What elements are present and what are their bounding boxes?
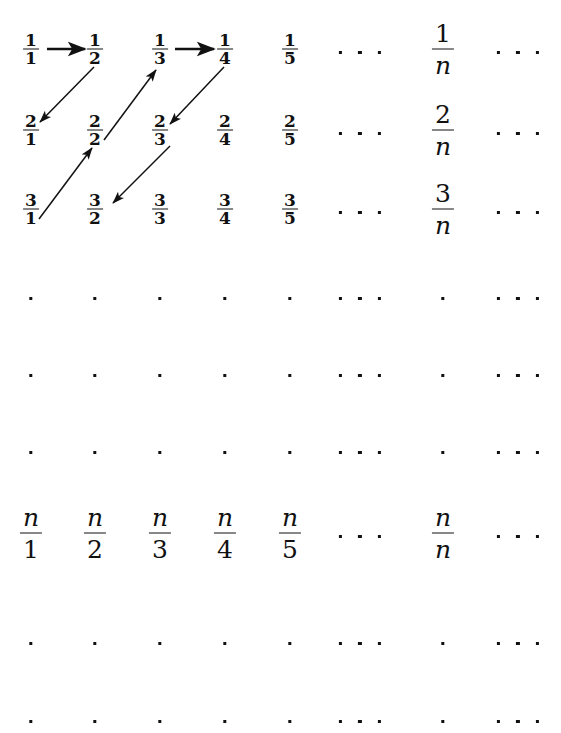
fraction-3-over-1-denominator: 1 xyxy=(23,210,39,227)
dot-glyph xyxy=(223,297,226,300)
fraction-n-over-3-numerator: n xyxy=(149,505,171,534)
dot-glyph xyxy=(536,51,539,54)
vertical-dot xyxy=(158,364,161,380)
dot-glyph xyxy=(536,720,539,723)
dot-glyph xyxy=(378,132,381,135)
dot-glyph xyxy=(223,720,226,723)
grid-cell-row-dots-3-col4 xyxy=(223,441,226,457)
grid-cell-row-2-col8 xyxy=(497,122,539,138)
dot-glyph xyxy=(441,374,444,377)
dot-glyph xyxy=(441,297,444,300)
fraction-2-over-2: 22 xyxy=(87,113,103,148)
fraction-1-over-1-denominator: 1 xyxy=(23,50,39,67)
fraction-3-over-4-denominator: 4 xyxy=(217,210,233,227)
grid-cell-row-dots-5-col8 xyxy=(497,710,539,726)
cantor-enumeration-figure: 11121314151n21222324252n31323334353nn1n2… xyxy=(0,0,561,733)
grid-cell-row-1-col1: 11 xyxy=(23,32,39,67)
grid-cell-row-dots-3-col2 xyxy=(93,441,96,457)
fraction-n-over-2: n2 xyxy=(84,505,106,562)
fraction-2-over-3: 23 xyxy=(152,113,168,148)
diagonal-dots xyxy=(339,287,381,303)
dot-glyph xyxy=(223,451,226,454)
grid-cell-row-dots-4-col8 xyxy=(497,632,539,648)
grid-cell-row-n-col8 xyxy=(497,525,539,541)
grid-cell-row-dots-5-col2 xyxy=(93,710,96,726)
diagonal-dots xyxy=(339,710,381,726)
arrow-group xyxy=(39,49,224,219)
grid-cell-row-1-col6 xyxy=(339,41,381,57)
grid-cell-row-dots-2-col1 xyxy=(29,364,32,380)
grid-cell-row-dots-3-col1 xyxy=(29,441,32,457)
dot-glyph xyxy=(516,211,519,214)
vertical-dot xyxy=(158,287,161,303)
grid-cell-row-dots-2-col8 xyxy=(497,364,539,380)
vertical-dot xyxy=(288,441,291,457)
dot-glyph xyxy=(516,451,519,454)
dot-glyph xyxy=(378,51,381,54)
grid-cell-row-3-col3: 33 xyxy=(152,192,168,227)
fraction-n-over-n: nn xyxy=(432,505,454,562)
vertical-dot xyxy=(223,364,226,380)
dot-glyph xyxy=(358,132,361,135)
dot-glyph xyxy=(378,642,381,645)
vertical-dot xyxy=(93,364,96,380)
grid-cell-row-dots-4-col4 xyxy=(223,632,226,648)
dot-glyph xyxy=(497,642,500,645)
fraction-2-over-2-denominator: 2 xyxy=(87,131,103,148)
grid-cell-row-dots-4-col6 xyxy=(339,632,381,648)
fraction-n-over-4-numerator: n xyxy=(214,505,236,534)
dot-glyph xyxy=(441,642,444,645)
fraction-n-over-1: n1 xyxy=(20,505,42,562)
dot-glyph xyxy=(339,451,342,454)
dot-glyph xyxy=(339,374,342,377)
dot-glyph xyxy=(358,297,361,300)
fraction-2-over-4-denominator: 4 xyxy=(217,131,233,148)
dot-glyph xyxy=(378,297,381,300)
dot-glyph xyxy=(93,720,96,723)
dot-glyph xyxy=(93,451,96,454)
dot-glyph xyxy=(339,642,342,645)
fraction-1-over-3-denominator: 3 xyxy=(152,50,168,67)
grid-cell-row-2-col5: 25 xyxy=(282,113,298,148)
grid-cell-row-dots-2-col6 xyxy=(339,364,381,380)
grid-cell-row-3-col1: 31 xyxy=(23,192,39,227)
dot-glyph xyxy=(536,642,539,645)
grid-cell-row-3-col5: 35 xyxy=(282,192,298,227)
fraction-1-over-4: 14 xyxy=(217,32,233,67)
grid-cell-row-2-col7: 2n xyxy=(432,102,454,159)
grid-cell-row-dots-1-col8 xyxy=(497,287,539,303)
grid-cell-row-n-col3: n3 xyxy=(149,505,171,562)
dot-glyph xyxy=(288,297,291,300)
dot-glyph xyxy=(378,211,381,214)
dot-glyph xyxy=(497,374,500,377)
dot-glyph xyxy=(536,297,539,300)
dot-glyph xyxy=(358,451,361,454)
row-3-ellipsis xyxy=(339,201,381,217)
dot-glyph xyxy=(29,297,32,300)
vertical-dot xyxy=(223,441,226,457)
grid-cell-row-dots-3-col6 xyxy=(339,441,381,457)
dot-glyph xyxy=(223,642,226,645)
fraction-3-over-2-denominator: 2 xyxy=(87,210,103,227)
fraction-3-over-n-denominator: n xyxy=(432,210,454,238)
grid-cell-row-dots-4-col5 xyxy=(288,632,291,648)
fraction-n-over-4-denominator: 4 xyxy=(214,534,236,562)
fraction-3-over-3: 33 xyxy=(152,192,168,227)
row-n-trailing-ellipsis xyxy=(497,525,539,541)
grid-cell-row-n-col5: n5 xyxy=(279,505,301,562)
dot-glyph xyxy=(536,374,539,377)
dot-glyph xyxy=(288,451,291,454)
fraction-n-over-n-numerator: n xyxy=(432,505,454,534)
dot-glyph xyxy=(497,720,500,723)
vertical-dot xyxy=(441,632,444,648)
dot-glyph xyxy=(288,374,291,377)
grid-cell-row-dots-1-col1 xyxy=(29,287,32,303)
fraction-1-over-3: 13 xyxy=(152,32,168,67)
fraction-1-over-2-denominator: 2 xyxy=(87,50,103,67)
dot-glyph xyxy=(378,535,381,538)
dot-glyph xyxy=(339,297,342,300)
grid-cell-row-dots-2-col5 xyxy=(288,364,291,380)
grid-cell-row-dots-1-col3 xyxy=(158,287,161,303)
dot-glyph xyxy=(516,297,519,300)
dot-glyph xyxy=(497,451,500,454)
